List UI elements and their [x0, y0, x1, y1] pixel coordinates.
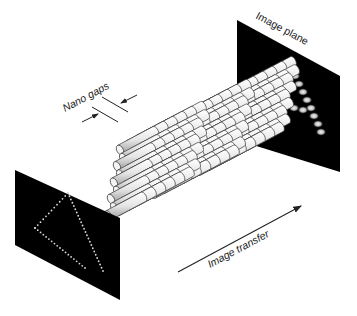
input-image-panel: [15, 170, 120, 300]
nano-gaps-label: Nano gaps: [60, 79, 111, 114]
image-transfer-arrow: Image transfer: [178, 206, 301, 272]
nano-gaps-annotation: Nano gaps: [60, 79, 137, 122]
diagram-canvas: Nano gaps Image plane Image transfer: [0, 0, 357, 316]
image-transfer-label: Image transfer: [205, 227, 271, 270]
